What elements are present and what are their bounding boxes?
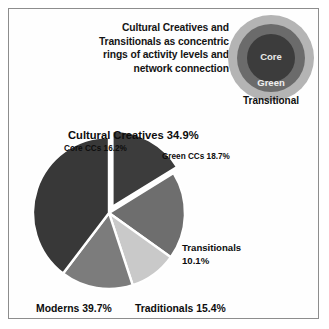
ring-label-core: Core xyxy=(228,51,314,62)
title-line-2: Transitionals as concentric xyxy=(69,35,229,49)
label-traditionals: Traditionals 15.4% xyxy=(135,303,226,314)
label-core-ccs: Core CCs 16.2% xyxy=(64,144,127,153)
title-line-4: network connection xyxy=(69,62,229,76)
concentric-rings-diagram: Core Green Transitional xyxy=(228,15,314,101)
label-cultural-creatives: Cultural Creatives 34.9% xyxy=(68,129,199,141)
label-green-ccs: Green CCs 18.7% xyxy=(162,152,230,161)
label-moderns: Moderns 39.7% xyxy=(36,303,112,314)
figure-title: Cultural Creatives and Transitionals as … xyxy=(69,21,229,75)
title-line-3: rings of activity levels and xyxy=(69,48,229,62)
figure-frame: Cultural Creatives and Transitionals as … xyxy=(8,8,319,319)
pie-chart: Cultural Creatives 34.9% Core CCs 16.2% … xyxy=(23,121,313,321)
label-transitionals-value: 10.1% xyxy=(182,254,241,267)
ring-label-transitional: Transitional xyxy=(221,95,321,106)
ring-label-green: Green xyxy=(228,77,314,88)
label-transitionals-name: Transitionals xyxy=(182,241,241,254)
title-line-1: Cultural Creatives and xyxy=(69,21,229,35)
label-transitionals: Transitionals 10.1% xyxy=(182,241,241,267)
